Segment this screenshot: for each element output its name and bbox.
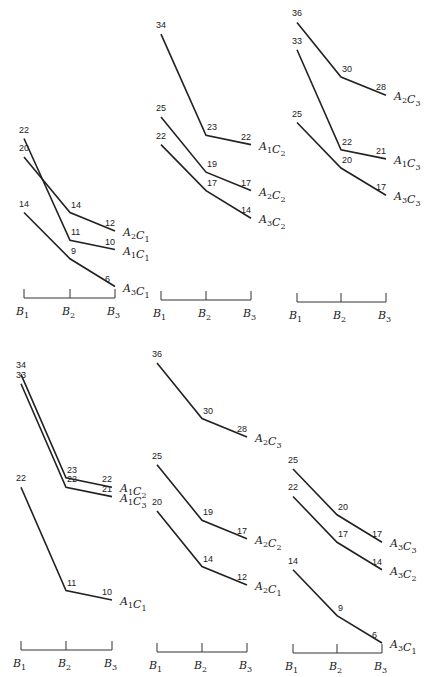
data-value-label: 22 (67, 474, 77, 484)
data-value-label: 11 (67, 578, 76, 588)
x-tick-label: B3 (242, 307, 256, 322)
data-value-label: 25 (152, 451, 162, 461)
x-tick-label: B3 (103, 657, 117, 672)
data-value-label: 33 (292, 36, 302, 46)
data-value-label: 36 (152, 349, 162, 359)
series-label: A2C1 (122, 226, 150, 244)
x-tick-label: B1 (152, 307, 166, 322)
data-value-label: 21 (376, 146, 386, 156)
series-a3c2: 221714A3C2 (288, 482, 417, 582)
series-label: A3C3 (389, 537, 417, 555)
data-value-label: 10 (102, 587, 112, 597)
series-line (161, 117, 251, 191)
data-value-label: 17 (372, 529, 382, 539)
data-value-label: 6 (105, 274, 110, 284)
series-line (24, 139, 115, 250)
x-tick-label: B1 (288, 309, 302, 324)
panel-2: B1B2B3342322A1C2251917A2C2221714A3C2 (152, 20, 286, 322)
data-value-label: 22 (241, 132, 251, 142)
data-value-label: 14 (203, 554, 213, 564)
series-label: A2C3 (254, 432, 282, 450)
x-tick-label: B1 (148, 659, 162, 674)
data-value-label: 20 (338, 502, 348, 512)
x-axis: B1B2B3 (148, 643, 252, 674)
data-value-label: 17 (338, 529, 348, 539)
data-value-label: 23 (207, 122, 217, 132)
series-label: A3C2 (389, 565, 417, 583)
panel-6: B1B2B3252017A3C3221714A3C21496A3C1 (284, 455, 417, 675)
series-label: A3C2 (258, 213, 286, 231)
data-value-label: 14 (71, 200, 81, 210)
data-value-label: 22 (156, 131, 166, 141)
data-value-label: 14 (241, 205, 251, 215)
series-a1c2: 342322A1C2 (156, 20, 286, 157)
data-value-label: 14 (19, 199, 29, 209)
series-line (157, 511, 247, 585)
x-tick-label: B3 (373, 660, 387, 675)
series-line (24, 213, 115, 287)
data-value-label: 25 (292, 109, 302, 119)
data-value-label: 17 (241, 178, 251, 188)
data-value-label: 22 (342, 137, 352, 147)
series-label: A2C2 (258, 186, 286, 204)
interaction-plots-figure: B1B2B3201412A2C1221110A1C11496A3C1B1B2B3… (0, 0, 430, 677)
data-value-label: 14 (288, 556, 298, 566)
x-tick-label: B2 (61, 305, 75, 320)
series-line (157, 363, 247, 437)
x-axis: B1B2B3 (284, 644, 387, 675)
panel-1: B1B2B3201412A2C1221110A1C11496A3C1 (15, 125, 150, 321)
x-axis: B1B2B3 (288, 293, 391, 324)
data-value-label: 33 (16, 370, 26, 380)
data-value-label: 22 (16, 473, 26, 483)
data-value-label: 28 (237, 424, 247, 434)
series-label: A3C1 (122, 282, 150, 300)
data-value-label: 30 (203, 406, 213, 416)
series-label: A2C3 (393, 90, 421, 108)
data-value-label: 14 (372, 557, 382, 567)
data-value-label: 22 (288, 482, 298, 492)
data-value-label: 28 (376, 82, 386, 92)
data-value-label: 20 (152, 497, 162, 507)
x-tick-label: B3 (238, 659, 252, 674)
series-line (297, 22, 386, 95)
panel-4: B1B2B3342322A1C2332221A1C3221110A1C1 (12, 360, 147, 672)
data-value-label: 12 (237, 572, 247, 582)
data-value-label: 25 (288, 455, 298, 465)
data-value-label: 19 (203, 507, 213, 517)
panel-3: B1B2B3363028A2C3332221A1C3252017A3C3 (288, 8, 421, 324)
series-a2c2: 251917A2C2 (152, 451, 282, 552)
data-value-label: 17 (376, 182, 386, 192)
series-label: A1C1 (119, 595, 147, 613)
x-tick-label: B2 (332, 309, 346, 324)
series-a1c1: 221110A1C1 (19, 125, 150, 263)
data-value-label: 19 (207, 159, 217, 169)
x-tick-label: B2 (193, 659, 207, 674)
data-value-label: 36 (292, 8, 302, 18)
series-a2c3: 363028A2C3 (152, 349, 282, 450)
series-label: A3C3 (393, 190, 421, 208)
x-axis: B1B2B3 (12, 641, 117, 672)
series-a2c3: 363028A2C3 (292, 8, 421, 108)
x-tick-label: B1 (12, 657, 26, 672)
data-value-label: 20 (342, 155, 352, 165)
series-a1c2: 342322A1C2 (16, 360, 147, 500)
x-axis: B1B2B3 (152, 291, 256, 322)
data-value-label: 22 (19, 125, 29, 135)
series-line (161, 34, 251, 144)
series-label: A2C1 (254, 580, 282, 598)
data-value-label: 6 (372, 630, 377, 640)
series-label: A1C2 (258, 140, 286, 158)
data-value-label: 9 (71, 246, 76, 256)
series-label: A2C2 (254, 534, 282, 552)
x-tick-label: B2 (197, 307, 211, 322)
data-value-label: 17 (207, 178, 217, 188)
series-a2c1: 201412A2C1 (19, 143, 150, 244)
data-value-label: 12 (105, 218, 115, 228)
x-tick-label: B1 (15, 305, 29, 320)
series-a3c3: 252017A3C3 (288, 455, 417, 555)
x-tick-label: B1 (284, 660, 298, 675)
x-tick-label: B3 (377, 309, 391, 324)
panel-5: B1B2B3363028A2C3251917A2C2201412A2C1 (148, 349, 282, 674)
x-tick-label: B3 (106, 305, 120, 320)
data-value-label: 10 (105, 237, 115, 247)
